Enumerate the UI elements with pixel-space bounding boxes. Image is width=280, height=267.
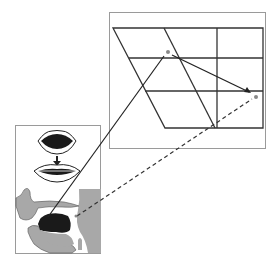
- vowel-articulation-diagram: [0, 0, 280, 267]
- vowel-point-2: [254, 95, 258, 99]
- vowel-point-1: [166, 50, 170, 54]
